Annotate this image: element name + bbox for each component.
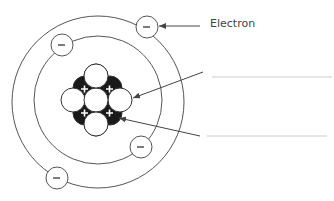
proton-arrow [119,118,200,136]
nucleus [61,64,132,136]
neutron [84,112,108,136]
atom-diagram [0,0,334,201]
neutron [61,88,85,112]
neutron [84,64,108,88]
electron-label: Electron [210,17,255,30]
neutron-arrow [133,72,203,98]
neutron [84,88,108,112]
neutron [108,88,132,112]
